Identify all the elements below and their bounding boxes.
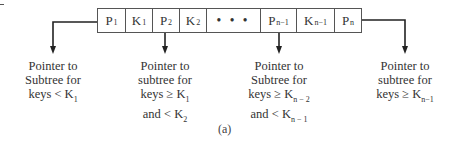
label-pn-1-subtree: Pointer to Subtree for keys ≥ Kn − 2 and… bbox=[229, 59, 329, 126]
label-line: Subtree for bbox=[3, 73, 103, 87]
cell-p2: P2 bbox=[153, 9, 180, 32]
label-line: and < Kn − 1 bbox=[229, 107, 329, 127]
label-line: keys ≥ K1 bbox=[115, 87, 215, 107]
cell-k1: K1 bbox=[126, 9, 153, 32]
cell-pn: Pn bbox=[335, 9, 361, 32]
label-p2-subtree: Pointer to subtree for keys ≥ K1 and < K… bbox=[115, 59, 215, 126]
arrowhead-p1 bbox=[50, 46, 56, 54]
label-line: and < K2 bbox=[115, 107, 215, 127]
label-line: subtree for bbox=[115, 73, 215, 87]
label-line: keys ≥ Kn − 2 bbox=[229, 87, 329, 107]
label-line: subtree for bbox=[355, 73, 455, 87]
arrowhead-p2 bbox=[162, 46, 168, 54]
btree-node: P1 K1 P2 K2 • • • Pn−1 Kn−1 Pn bbox=[97, 8, 362, 33]
arrow-pn bbox=[360, 20, 405, 46]
figure-caption: (a) bbox=[218, 122, 231, 137]
cell-k2: K2 bbox=[180, 9, 207, 32]
label-pn-subtree: Pointer to subtree for keys ≥ Kn−1 bbox=[355, 59, 455, 107]
cell-pn-1: Pn−1 bbox=[261, 9, 297, 32]
arrow-p1 bbox=[53, 22, 97, 46]
cell-ellipsis: • • • bbox=[207, 9, 261, 32]
label-line: Pointer to bbox=[115, 59, 215, 73]
label-line: Pointer to bbox=[3, 59, 103, 73]
arrowhead-pn-1 bbox=[276, 46, 282, 54]
cell-p1: P1 bbox=[98, 9, 126, 32]
label-p1-subtree: Pointer to Subtree for keys < K1 bbox=[3, 59, 103, 107]
arrowhead-pn bbox=[402, 46, 408, 54]
label-line: Pointer to bbox=[229, 59, 329, 73]
label-line: keys ≥ Kn−1 bbox=[355, 87, 455, 107]
label-line: Subtree for bbox=[229, 73, 329, 87]
label-line: Pointer to bbox=[355, 59, 455, 73]
label-line: keys < K1 bbox=[3, 87, 103, 107]
cell-kn-1: Kn−1 bbox=[297, 9, 335, 32]
